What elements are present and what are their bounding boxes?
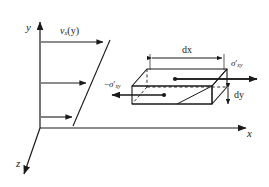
axis-z-label: z	[16, 158, 20, 169]
dx-label: dx	[182, 45, 192, 55]
dx-dimension-line	[150, 54, 224, 70]
dy-label: dy	[234, 90, 244, 100]
shear-stress-positive-label: σ′xy	[231, 59, 242, 69]
diagram-canvas	[0, 0, 269, 187]
shear-stress-diagram: y x z vx(y) dx dy σ′xy −σ′xy	[0, 0, 269, 187]
axis-x-label: x	[247, 128, 252, 139]
sigma-subscript: xy	[115, 83, 120, 89]
shear-stress-negative-label: −σ′xy	[104, 80, 121, 90]
axis-z	[24, 128, 40, 174]
axis-y-label: y	[26, 22, 31, 33]
velocity-profile-label: vx(y)	[60, 26, 79, 37]
velocity-argument: (y)	[67, 25, 79, 36]
element-top-face	[132, 69, 227, 86]
sigma-subscript: xy	[237, 62, 242, 68]
